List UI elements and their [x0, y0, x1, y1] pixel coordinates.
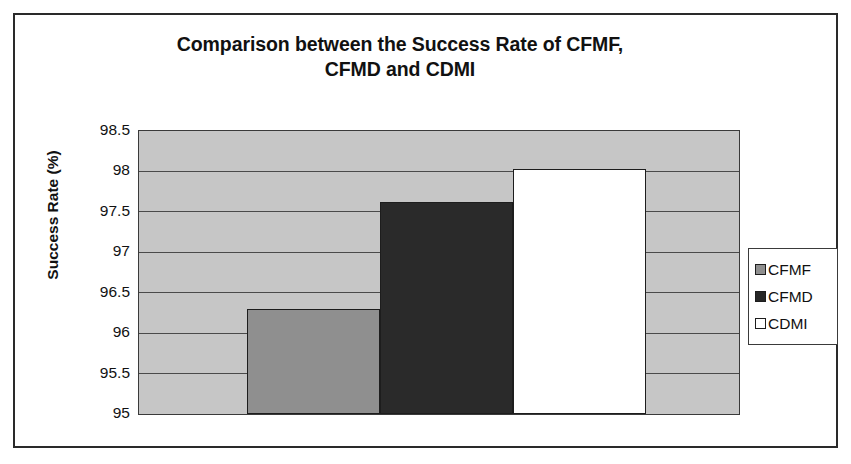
- legend-label-cdmi: CDMI: [768, 315, 808, 333]
- bar-cfmd[interactable]: [380, 202, 513, 414]
- gridline: [139, 171, 739, 172]
- legend-label-cfmf: CFMF: [768, 261, 811, 279]
- legend-item-cfmf[interactable]: CFMF: [755, 256, 837, 283]
- y-axis-tick-label: 95: [73, 405, 130, 421]
- chart-legend: CFMF CFMD CDMI: [748, 248, 838, 345]
- chart-title-line-1: Comparison between the Success Rate of C…: [75, 32, 725, 57]
- chart-figure: Comparison between the Success Rate of C…: [0, 0, 851, 464]
- legend-swatch-icon-cfmd: [755, 291, 766, 302]
- y-axis-tickmark: [138, 211, 139, 212]
- y-axis-tick-label: 96: [73, 324, 130, 340]
- y-axis-tickmark: [138, 373, 139, 374]
- chart-title-line-2: CFMD and CDMI: [75, 57, 725, 82]
- y-axis-tick-label: 95.5: [73, 365, 130, 381]
- y-axis-tick-labels: 98.59897.59796.59695.595: [73, 130, 130, 440]
- bar-cfmf[interactable]: [247, 309, 380, 414]
- y-axis-tickmark: [138, 171, 139, 172]
- y-axis-tick-label: 97.5: [73, 203, 130, 219]
- y-axis-tickmark: [138, 414, 139, 415]
- legend-swatch-icon-cfmf: [755, 264, 766, 275]
- legend-label-cfmd: CFMD: [768, 288, 813, 306]
- y-axis-tickmark: [138, 292, 139, 293]
- chart-title: Comparison between the Success Rate of C…: [75, 32, 725, 82]
- legend-item-cfmd[interactable]: CFMD: [755, 283, 837, 310]
- legend-swatch-icon-cdmi: [755, 318, 766, 329]
- y-axis-tick-label: 98.5: [73, 122, 130, 138]
- plot-area: [138, 130, 740, 415]
- y-axis-tick-label: 98: [73, 162, 130, 178]
- y-axis-title: Success Rate (%): [44, 115, 62, 315]
- chart-frame: Comparison between the Success Rate of C…: [13, 13, 838, 448]
- y-axis-tickmark: [138, 333, 139, 334]
- y-axis-tick-label: 97: [73, 243, 130, 259]
- legend-item-cdmi[interactable]: CDMI: [755, 310, 837, 337]
- y-axis-tickmark: [138, 131, 139, 132]
- y-axis-tickmark: [138, 252, 139, 253]
- y-axis-tick-label: 96.5: [73, 284, 130, 300]
- bar-cdmi[interactable]: [513, 169, 646, 414]
